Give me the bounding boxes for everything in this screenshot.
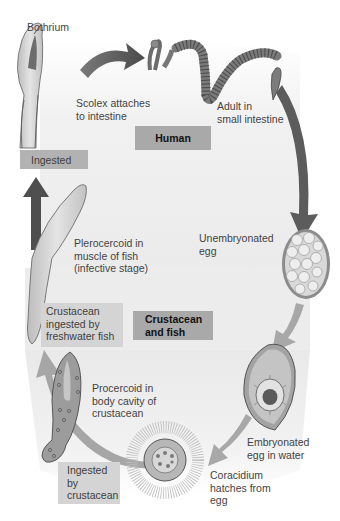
event-box-crustacean-ingested-by-fish: Crustacean ingested by freshwater fish (41, 303, 123, 347)
label-procercoid: Procercoid in body cavity of crustacean (92, 382, 156, 420)
unembryonated-egg-illustration (282, 229, 330, 299)
scolex-illustration (17, 23, 42, 148)
tapeworm-life-cycle-diagram: Human Crustacean and fish Ingested Crust… (0, 0, 340, 521)
label-coracidium: Coracidium hatches from egg (210, 469, 271, 507)
host-box-human: Human (135, 126, 211, 150)
label-adult: Adult in small intestine (217, 100, 284, 125)
label-unembryonated-egg: Unembryonated egg (199, 232, 274, 257)
label-plerocercoid: Plerocercoid in muscle of fish (infectiv… (74, 237, 148, 275)
label-embryonated-egg: Embryonated egg in water (247, 436, 309, 461)
label-scolex: Scolex attaches to intestine (76, 97, 150, 122)
host-box-crustacean-fish: Crustacean and fish (133, 311, 213, 340)
event-box-ingested-by-crustacean: Ingested by crustacean (58, 462, 120, 504)
label-bothrium: Bothrium (27, 21, 69, 34)
event-box-ingested: Ingested (20, 150, 88, 169)
